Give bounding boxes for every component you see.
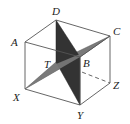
label-b: B xyxy=(83,57,90,69)
edge-xy xyxy=(25,89,80,105)
edge-ad xyxy=(25,20,56,42)
label-c: C xyxy=(113,25,121,37)
cube-diagram: D A C T B X Z Y xyxy=(0,0,130,124)
label-t: T xyxy=(44,58,51,70)
label-y: Y xyxy=(77,109,85,121)
edge-yz xyxy=(80,83,110,105)
edge-cb xyxy=(80,36,110,57)
label-x: X xyxy=(12,91,21,103)
label-z: Z xyxy=(113,79,120,91)
label-d: D xyxy=(51,5,60,17)
label-a: A xyxy=(10,36,18,48)
